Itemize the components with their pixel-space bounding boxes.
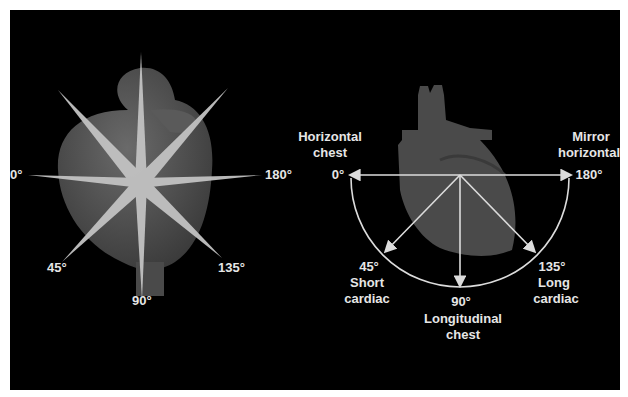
svg-text:90°: 90° [132,293,152,308]
svg-text:horizontal: horizontal [558,145,620,160]
svg-text:45°: 45° [47,260,67,275]
svg-text:180°: 180° [576,167,603,182]
right-heart-silhouette [398,85,515,256]
svg-text:90°: 90° [451,294,471,309]
svg-text:135°: 135° [218,260,245,275]
svg-text:cardiac: cardiac [344,291,390,306]
svg-text:chest: chest [446,327,481,342]
svg-text:Longitudinal: Longitudinal [424,311,502,326]
svg-text:0°: 0° [332,167,344,182]
svg-text:180°: 180° [265,167,292,182]
svg-text:chest: chest [313,145,348,160]
svg-text:cardiac: cardiac [533,291,579,306]
svg-text:135°: 135° [539,259,566,274]
svg-text:Short: Short [350,275,385,290]
svg-text:Horizontal: Horizontal [298,129,362,144]
svg-text:45°: 45° [359,259,379,274]
svg-text:0°: 0° [10,167,22,182]
svg-text:Mirror: Mirror [572,129,610,144]
diagram-svg: 0° 180° 45° 90° 135° Horizontal chest 0°… [0,0,628,397]
protractor [351,175,570,287]
svg-text:Long: Long [538,275,570,290]
